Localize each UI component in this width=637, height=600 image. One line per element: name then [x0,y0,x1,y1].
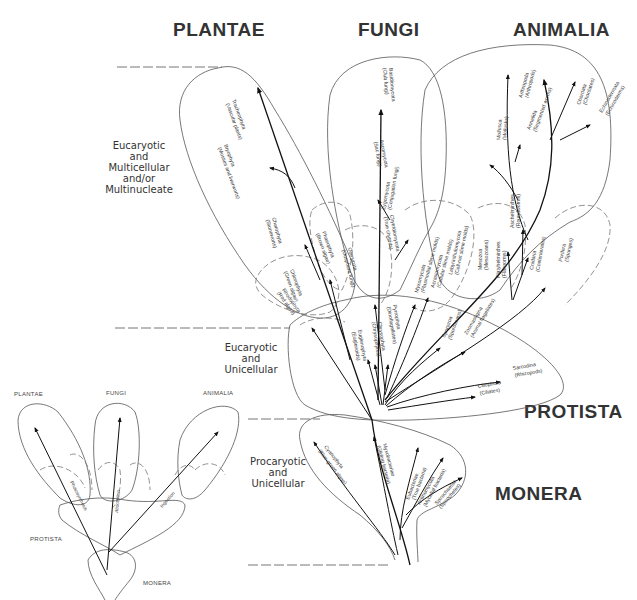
branch-chordata [550,82,575,140]
svg-text:Unicellular: Unicellular [225,364,279,375]
svg-text:Unicellular: Unicellular [252,478,306,489]
inset-label-fungi: FUNGI [106,390,126,396]
inset-label-plantae: PLANTAE [14,391,43,397]
protista-outline [288,295,563,420]
kingdom-label-fungi: FUNGI [358,19,420,40]
svg-text:(Roundworms): (Roundworms) [515,194,521,228]
svg-text:(Sponges): (Sponges) [563,237,574,262]
branch-cnidaria [513,258,528,300]
branch-echinodermata [560,125,590,140]
branch-ciliophora [388,397,475,410]
inset-label-protista: PROTISTA [30,536,62,542]
svg-text:(Flatworms): (Flatworms) [501,250,507,278]
level-label-procaryotic: Procaryotic and Unicellular [250,456,306,489]
svg-text:Procaryotic: Procaryotic [250,456,306,467]
svg-text:(Club fungi): (Club fungi) [382,68,390,96]
inset-diagram: PLANTAE FUNGI ANIMALIA PROTISTA MONERA P… [14,390,239,600]
kingdom-label-plantae: PLANTAE [173,19,265,40]
svg-text:Multicellular: Multicellular [108,162,170,173]
svg-text:Eucaryotic: Eucaryotic [225,342,278,353]
svg-text:and: and [242,353,261,364]
branch-annelida [515,145,520,162]
level-label-eucaryotic-unicellular: Eucaryotic and Unicellular [225,342,279,375]
kingdom-label-monera: MONERA [495,483,582,504]
inset-label-monera: MONERA [143,580,171,586]
branch-porifera [385,288,545,402]
branch-aschelminthes [522,230,523,275]
svg-text:and: and [269,467,288,478]
inset-mode-absorption: Absorption [114,489,121,513]
level-label-multicellular: Eucaryotic and Multicellular and/or Mult… [105,140,173,195]
svg-text:and/or: and/or [123,173,156,184]
inset-label-animalia: ANIMALIA [203,390,233,396]
svg-text:Multinucleate: Multinucleate [105,184,173,195]
inset-mode-photosynthesis: Photosynthesis [69,480,88,512]
kingdom-label-animalia: ANIMALIA [513,19,610,40]
taxa-labels-plantae: Tracheophyta (Vascular plants) Bryophyta… [217,98,336,316]
trunk [372,420,410,565]
svg-text:(Mesozoans): (Mesozoans) [483,240,489,270]
five-kingdom-diagram: PLANTAE FUNGI ANIMALIA PROTISTA MONERA E… [0,0,637,600]
taxa-labels-protista: Euglenophyta (Euglenoids) Chrysophyta (C… [351,297,543,396]
taxa-labels-fungi: Basidiomycota (Club fungi) Ascomycota (S… [341,68,469,294]
svg-text:Eucaryotic: Eucaryotic [113,140,166,151]
svg-text:and: and [130,151,149,162]
branch-phaeophyta [330,280,350,360]
inset-mode-ingestion: Ingestion [159,491,176,509]
